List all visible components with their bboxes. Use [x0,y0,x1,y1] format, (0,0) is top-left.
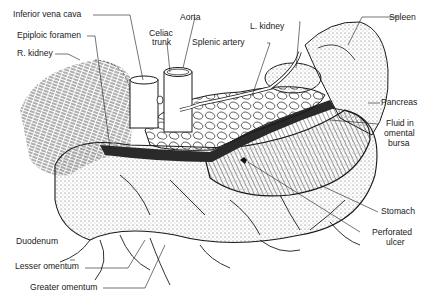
label-aorta: Aorta [180,13,201,23]
anatomy-diagram: Inferior vena cava Celiac trunk Aorta L.… [0,0,430,301]
label-duodenum: Duodenum [16,237,58,247]
label-lesser-omentum: Lesser omentum [15,262,79,272]
label-pancreas: Pancreas [381,98,417,108]
label-inferior-vena-cava: Inferior vena cava [13,10,81,20]
label-perforated-ulcer-line2: ulcer [386,238,405,248]
label-fluid-line3: bursa [388,139,410,149]
label-r-kidney: R. kidney [17,49,53,59]
ivc-tube [130,76,158,128]
label-splenic-artery: Splenic artery [192,38,245,48]
aorta-tube [164,68,192,133]
label-l-kidney: L. kidney [250,22,284,32]
label-greater-omentum: Greater omentum [30,283,97,293]
label-celiac-trunk-line2: trunk [152,38,171,48]
label-stomach: Stomach [381,207,415,217]
label-epiploic-foramen: Epiploic foramen [17,31,81,41]
label-spleen: Spleen [389,13,416,23]
